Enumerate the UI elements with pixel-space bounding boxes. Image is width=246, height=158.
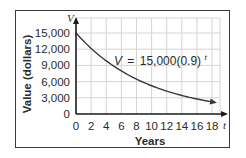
decay-curve bbox=[76, 33, 217, 104]
equation-lhs: V bbox=[114, 54, 123, 68]
exponential-decay-chart: 024681012141618 03,0006,0009,00012,00015… bbox=[0, 0, 246, 158]
x-tick-label: 6 bbox=[118, 120, 124, 132]
equation-label: V = 15,000(0.9) t bbox=[114, 53, 207, 68]
x-tick-label: 4 bbox=[103, 120, 110, 132]
x-tick-label: 14 bbox=[175, 120, 188, 132]
y-tick-labels: 03,0006,0009,00012,00015,000 bbox=[35, 27, 70, 120]
x-tick-label: 10 bbox=[145, 120, 158, 132]
y-tick-label: 15,000 bbox=[35, 27, 70, 39]
equation-rhs: 15,000(0.9) bbox=[140, 54, 201, 68]
x-tick-label: 12 bbox=[160, 120, 173, 132]
x-tick-label: 8 bbox=[133, 120, 139, 132]
x-tick-label: 2 bbox=[88, 120, 94, 132]
equation-exponent: t bbox=[204, 53, 207, 62]
x-tick-label: 0 bbox=[73, 120, 79, 132]
x-tick-label: 16 bbox=[191, 120, 204, 132]
x-axis-arrow-icon bbox=[221, 111, 228, 117]
x-axis-title: Years bbox=[135, 135, 166, 147]
y-axis-title: Value (dollars) bbox=[21, 35, 33, 114]
y-tick-label: 3,000 bbox=[41, 92, 70, 104]
x-tick-label: 18 bbox=[206, 120, 219, 132]
y-tick-label: 6,000 bbox=[41, 76, 70, 88]
x-tick-labels: 024681012141618 bbox=[73, 120, 219, 132]
y-tick-label: 0 bbox=[64, 108, 70, 120]
equation-equals: = bbox=[127, 54, 134, 68]
y-tick-label: 12,000 bbox=[35, 43, 70, 55]
x-axis-variable: t bbox=[223, 119, 227, 131]
y-tick-label: 9,000 bbox=[41, 59, 70, 71]
curve-arrow-icon bbox=[210, 99, 217, 105]
